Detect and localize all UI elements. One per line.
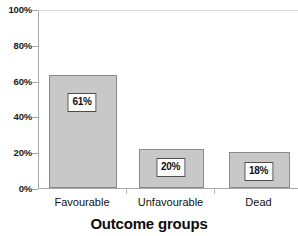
x-axis-title: Outcome groups (0, 215, 298, 233)
y-axis-label-text: 80% (0, 41, 32, 51)
y-axis-label-text: 40% (0, 112, 32, 122)
y-axis-label-40: 40% (0, 112, 32, 122)
value-label-favourable: 61% (67, 93, 96, 112)
x-axis-tick-1 (126, 189, 127, 194)
y-axis-label-80: 80% (0, 41, 32, 51)
bar-chart: 100% 80% 60% 40% 20% 0% 61% 20% 18% Favo… (0, 0, 298, 236)
y-axis-label-text: 60% (0, 77, 32, 87)
y-axis-label-100: 100% (0, 5, 32, 15)
x-axis-label-dead: Dead (245, 196, 271, 209)
x-axis-label-unfavourable: Unfavourable (138, 196, 203, 209)
x-axis-label-favourable: Favourable (54, 196, 109, 209)
bar-favourable (49, 75, 117, 188)
y-axis-label-text: 100% (0, 5, 32, 15)
x-axis-tick-2 (214, 189, 215, 194)
y-axis-label-60: 60% (0, 77, 32, 87)
y-axis-label-20: 20% (0, 148, 32, 158)
y-axis-label-text: 0% (0, 184, 32, 194)
value-label-unfavourable: 20% (156, 158, 185, 177)
y-axis-tick-0 (32, 189, 38, 190)
y-axis-label-0: 0% (0, 184, 32, 194)
value-label-dead: 18% (244, 162, 273, 181)
y-axis-label-text: 20% (0, 148, 32, 158)
